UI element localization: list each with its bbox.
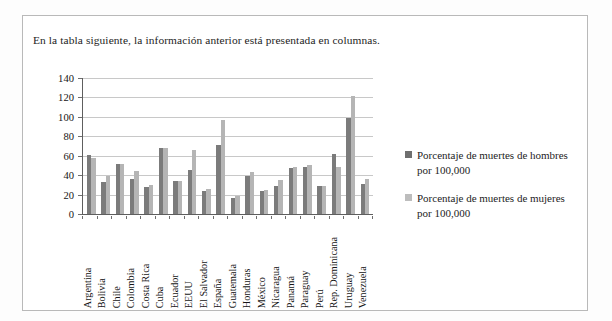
x-axis-tick-mark: [140, 216, 141, 219]
bar-group: [113, 78, 127, 214]
x-axis-tick-mark: [372, 216, 373, 219]
legend-swatch-icon-women: [405, 194, 412, 201]
bar-chart: 020406080100120140 ArgentinaBoliviaChile…: [30, 70, 575, 310]
x-axis-tick-label: Bolivia: [97, 278, 107, 308]
bar-women: [163, 148, 167, 214]
x-axis-tick-label: Uruguay: [344, 272, 354, 308]
y-axis-tick-label: 100: [58, 111, 74, 122]
bar-group: [127, 78, 141, 214]
x-axis-tick-label: España: [213, 279, 223, 308]
x-axis-tick-mark: [358, 216, 359, 219]
bar-women: [106, 176, 110, 214]
y-axis-tick-label: 80: [63, 131, 74, 142]
bar-women: [278, 180, 282, 214]
bar-group: [315, 78, 329, 214]
bar-women: [322, 186, 326, 214]
x-axis-tick-mark: [314, 216, 315, 219]
bar-women: [178, 181, 182, 214]
x-axis-tick-mark: [300, 216, 301, 219]
x-axis-tick-label: Argentina: [83, 267, 93, 308]
legend-item-women: Porcentaje de muertes de mujeres por 100…: [405, 191, 575, 220]
x-axis-tick-label: Guatemala: [228, 264, 238, 308]
bar-group: [358, 78, 372, 214]
legend-item-men: Porcentaje de muertes de hombres por 100…: [405, 148, 575, 177]
plot-area: [82, 78, 373, 215]
x-axis-tick-mark: [256, 216, 257, 219]
x-axis-tick-label: Paraguay: [300, 270, 310, 308]
y-axis-tick-label: 0: [69, 209, 74, 220]
bar-women: [192, 150, 196, 214]
y-axis-labels: 020406080100120140: [30, 78, 78, 214]
bar-group: [185, 78, 199, 214]
bar-group: [343, 78, 357, 214]
y-axis-tick-label: 140: [58, 73, 74, 84]
x-axis-tick-label: Perú: [315, 289, 325, 308]
bar-women: [336, 167, 340, 214]
x-axis-tick-mark: [242, 216, 243, 219]
x-axis-tick-mark: [198, 216, 199, 219]
y-axis-tick-label: 40: [63, 170, 74, 181]
x-axis-tick-mark: [111, 216, 112, 219]
legend-label-women: Porcentaje de muertes de mujeres por 100…: [417, 191, 575, 220]
bar-women: [235, 196, 239, 214]
x-axis-tick-label: Colombia: [126, 268, 136, 308]
bar-women: [120, 164, 124, 215]
x-axis-tick-mark: [82, 216, 83, 219]
y-axis-tick-label: 60: [63, 150, 74, 161]
bar-groups: [83, 78, 373, 214]
bar-group: [242, 78, 256, 214]
plot-area-wrapper: 020406080100120140 ArgentinaBoliviaChile…: [30, 70, 370, 220]
x-axis-labels: ArgentinaBoliviaChileColombiaCosta RicaC…: [82, 216, 372, 308]
x-axis-tick-mark: [271, 216, 272, 219]
caption-text: En la tabla siguiente, la información an…: [33, 34, 380, 46]
legend-swatch-icon-men: [405, 151, 412, 158]
x-axis-tick-label: EEUU: [184, 281, 194, 308]
x-axis-tick-label: Rep. Dominicana: [329, 237, 339, 308]
x-axis-tick-mark: [227, 216, 228, 219]
y-axis-tick-label: 120: [58, 92, 74, 103]
x-axis-tick-mark: [97, 216, 98, 219]
x-axis-tick-label: Venezuela: [358, 266, 368, 308]
x-axis-tick-label: Nicaragua: [271, 266, 281, 308]
x-axis-tick-label: Costa Rica: [141, 264, 151, 308]
x-axis-tick-mark: [329, 216, 330, 219]
bar-group: [84, 78, 98, 214]
bar-women: [250, 172, 254, 214]
x-axis-tick-label: Cuba: [155, 286, 165, 308]
x-axis-tick-mark: [285, 216, 286, 219]
bar-women: [293, 167, 297, 214]
x-axis-tick-mark: [126, 216, 127, 219]
x-axis-tick-mark: [213, 216, 214, 219]
bar-group: [271, 78, 285, 214]
bar-women: [221, 120, 225, 214]
bar-group: [257, 78, 271, 214]
bar-women: [351, 96, 355, 214]
x-axis-tick-label: Panamá: [286, 276, 296, 308]
bar-women: [91, 158, 95, 214]
chart-legend: Porcentaje de muertes de hombres por 100…: [405, 148, 575, 234]
x-axis-tick-mark: [184, 216, 185, 219]
bar-group: [156, 78, 170, 214]
bar-group: [286, 78, 300, 214]
bar-group: [98, 78, 112, 214]
bar-group: [170, 78, 184, 214]
legend-label-men: Porcentaje de muertes de hombres por 100…: [417, 148, 575, 177]
y-axis-tick-label: 20: [63, 189, 74, 200]
bar-group: [228, 78, 242, 214]
bar-group: [142, 78, 156, 214]
bar-women: [134, 171, 138, 214]
x-axis-tick-label: Chile: [112, 286, 122, 308]
x-axis-tick-mark: [169, 216, 170, 219]
bar-group: [329, 78, 343, 214]
bar-group: [300, 78, 314, 214]
x-axis-tick-mark: [343, 216, 344, 219]
bar-women: [206, 189, 210, 214]
x-axis-tick-label: El Salvador: [199, 260, 209, 308]
x-axis-tick-label: Ecuador: [170, 274, 180, 308]
x-axis-tick-mark: [155, 216, 156, 219]
bar-women: [264, 190, 268, 214]
bar-women: [307, 165, 311, 214]
bar-group: [199, 78, 213, 214]
bar-women: [149, 185, 153, 214]
x-axis-tick-label: México: [257, 277, 267, 308]
